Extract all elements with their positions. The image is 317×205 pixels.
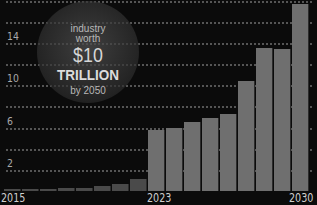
bar <box>274 49 291 191</box>
bar <box>58 188 75 191</box>
x-tick-label: 2023 <box>147 192 171 205</box>
bar <box>40 189 57 191</box>
bar <box>256 48 273 191</box>
bar <box>130 179 147 191</box>
bar <box>166 128 183 191</box>
bar <box>94 186 111 191</box>
bar <box>220 114 237 191</box>
bar-chart: 14 10 6 2 industry worth $10 TRILLION by… <box>0 0 317 205</box>
bar <box>112 184 129 191</box>
bar <box>184 122 201 191</box>
bar <box>292 4 309 191</box>
bar <box>238 81 255 191</box>
x-tick-label: 2030 <box>289 192 313 205</box>
x-tick-label: 2015 <box>1 192 25 205</box>
bar <box>202 118 219 191</box>
bar <box>148 130 165 191</box>
bars-area <box>0 0 317 191</box>
bar <box>76 188 93 191</box>
